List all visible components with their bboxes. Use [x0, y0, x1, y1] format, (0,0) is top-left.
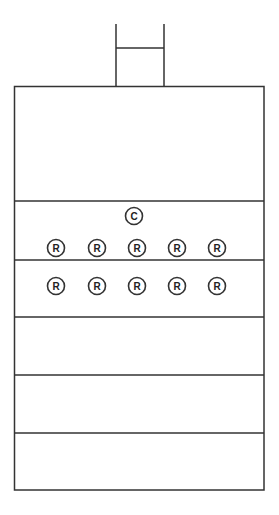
marker-label: R — [173, 243, 181, 254]
marker-label: R — [52, 281, 60, 292]
c-marker: C — [126, 208, 143, 225]
marker-label: R — [93, 243, 101, 254]
diagram-canvas: CRRRRRRRRRR — [0, 0, 279, 515]
marker-label: R — [133, 243, 141, 254]
marker-label: R — [52, 243, 60, 254]
r-marker-row2-1: R — [48, 278, 65, 295]
r-marker-row1-5: R — [209, 240, 226, 257]
r-marker-row2-4: R — [169, 278, 186, 295]
r-marker-row1-2: R — [89, 240, 106, 257]
r-marker-row2-5: R — [209, 278, 226, 295]
marker-label: R — [173, 281, 181, 292]
marker-label: C — [130, 211, 137, 222]
marker-label: R — [213, 281, 221, 292]
marker-label: R — [213, 243, 221, 254]
chimney — [116, 24, 164, 86]
marker-label: R — [133, 281, 141, 292]
r-marker-row2-2: R — [89, 278, 106, 295]
r-marker-row2-3: R — [129, 278, 146, 295]
marker-label: R — [93, 281, 101, 292]
r-marker-row1-1: R — [48, 240, 65, 257]
r-marker-row1-3: R — [129, 240, 146, 257]
r-marker-row1-4: R — [169, 240, 186, 257]
